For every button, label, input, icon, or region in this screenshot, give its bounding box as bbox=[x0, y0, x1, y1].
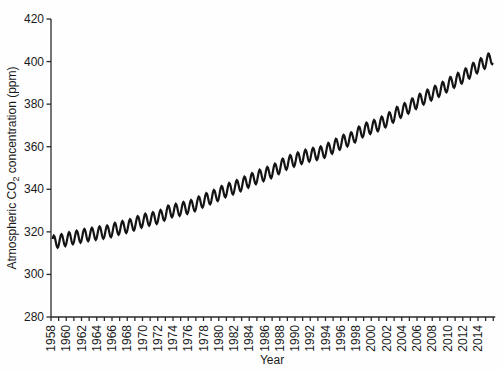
x-tick-label: 2006 bbox=[410, 325, 424, 352]
y-tick-label: 320 bbox=[24, 225, 44, 239]
y-tick-label: 380 bbox=[24, 97, 44, 111]
x-tick-label: 1968 bbox=[120, 325, 134, 352]
y-tick-label: 420 bbox=[24, 12, 44, 26]
y-tick-label: 340 bbox=[24, 182, 44, 196]
y-tick-label: 400 bbox=[24, 55, 44, 69]
x-tick-label: 1998 bbox=[349, 325, 363, 352]
x-tick-label: 1986 bbox=[258, 325, 272, 352]
x-axis-label: Year bbox=[260, 353, 284, 367]
x-tick-label: 1990 bbox=[288, 325, 302, 352]
x-tick-label: 1970 bbox=[136, 325, 150, 352]
x-tick-label: 1974 bbox=[166, 325, 180, 352]
x-tick-label: 1978 bbox=[197, 325, 211, 352]
y-tick-label: 280 bbox=[24, 310, 44, 324]
x-tick-label: 1994 bbox=[319, 325, 333, 352]
x-tick-label: 2002 bbox=[380, 325, 394, 352]
chart-canvas: Year 28030032034036038040042019581960196… bbox=[0, 0, 502, 372]
x-tick-label: 1992 bbox=[303, 325, 317, 352]
x-tick-label: 1960 bbox=[59, 325, 73, 352]
x-tick-label: 1988 bbox=[273, 325, 287, 352]
x-tick-label: 1966 bbox=[105, 325, 119, 352]
x-tick-label: 1964 bbox=[90, 325, 104, 352]
x-tick-label: 2004 bbox=[395, 325, 409, 352]
x-tick-label: 1980 bbox=[212, 325, 226, 352]
x-tick-label: 1972 bbox=[151, 325, 165, 352]
x-tick-label: 2000 bbox=[364, 325, 378, 352]
x-tick-label: 2014 bbox=[471, 325, 485, 352]
x-tick-label: 1962 bbox=[75, 325, 89, 352]
co2-line-chart-figure: Year 28030032034036038040042019581960196… bbox=[0, 0, 502, 372]
x-tick-label: 2010 bbox=[441, 325, 455, 352]
x-tick-label: 2012 bbox=[456, 325, 470, 352]
x-tick-label: 1976 bbox=[181, 325, 195, 352]
y-tick-label: 360 bbox=[24, 140, 44, 154]
x-tick-label: 1982 bbox=[227, 325, 241, 352]
co2-curve bbox=[53, 54, 493, 248]
x-tick-label: 2008 bbox=[425, 325, 439, 352]
x-tick-label: 1958 bbox=[44, 325, 58, 352]
x-tick-label: 1996 bbox=[334, 325, 348, 352]
y-tick-label: 300 bbox=[24, 267, 44, 281]
y-axis-label: Atmospheric CO2 concentration (ppm) bbox=[5, 66, 21, 269]
x-tick-label: 1984 bbox=[242, 325, 256, 352]
